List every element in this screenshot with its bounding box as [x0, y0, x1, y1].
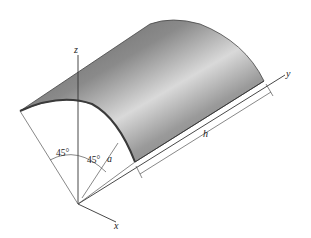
x-axis-label: x [113, 220, 119, 231]
angle-left-label: 45° [56, 148, 70, 158]
radius-dimension-line [82, 143, 118, 198]
shell-surface [20, 20, 264, 162]
cylindrical-shell-diagram: z y x h a 45° 45° [0, 0, 311, 238]
y-axis-label: y [285, 68, 291, 79]
h-extension-line-front [136, 166, 142, 178]
angle-right-label: 45° [87, 155, 101, 165]
a-label: a [107, 153, 112, 164]
h-label: h [203, 128, 208, 139]
x-axis [78, 204, 116, 222]
radius-line-right [78, 162, 135, 204]
z-axis-label: z [73, 44, 78, 55]
